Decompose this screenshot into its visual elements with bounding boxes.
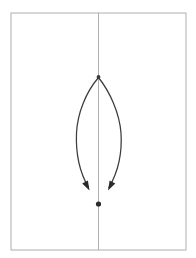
diagram-svg (0, 0, 196, 258)
focus-dot (96, 201, 101, 206)
apex-point (97, 75, 101, 79)
left-arrowhead (82, 181, 89, 191)
right-arrowhead (108, 181, 115, 191)
left-curve (76, 78, 98, 188)
figure-canvas (0, 0, 196, 258)
right-curve (99, 78, 122, 188)
